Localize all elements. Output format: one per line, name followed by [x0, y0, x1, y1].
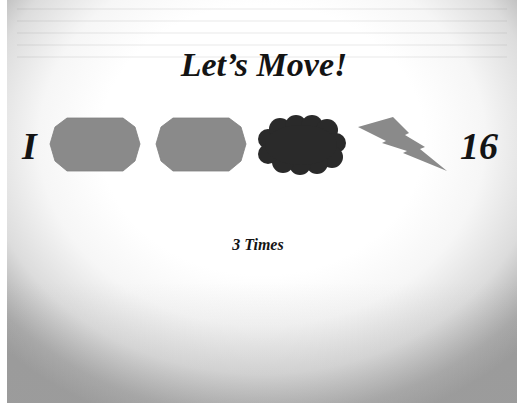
slide-title: Let’s Move!: [0, 47, 528, 83]
end-label: 16: [460, 126, 498, 166]
lightning-bolt-icon: [355, 114, 451, 176]
octagon-shape-icon: [155, 117, 247, 172]
page: Let’s Move! I 16 3 Times: [0, 0, 528, 416]
octagon-shape-icon: [49, 117, 141, 172]
repeat-caption: 3 Times: [0, 236, 516, 254]
cloud-shape-icon: [254, 115, 348, 175]
start-label: I: [22, 126, 37, 166]
